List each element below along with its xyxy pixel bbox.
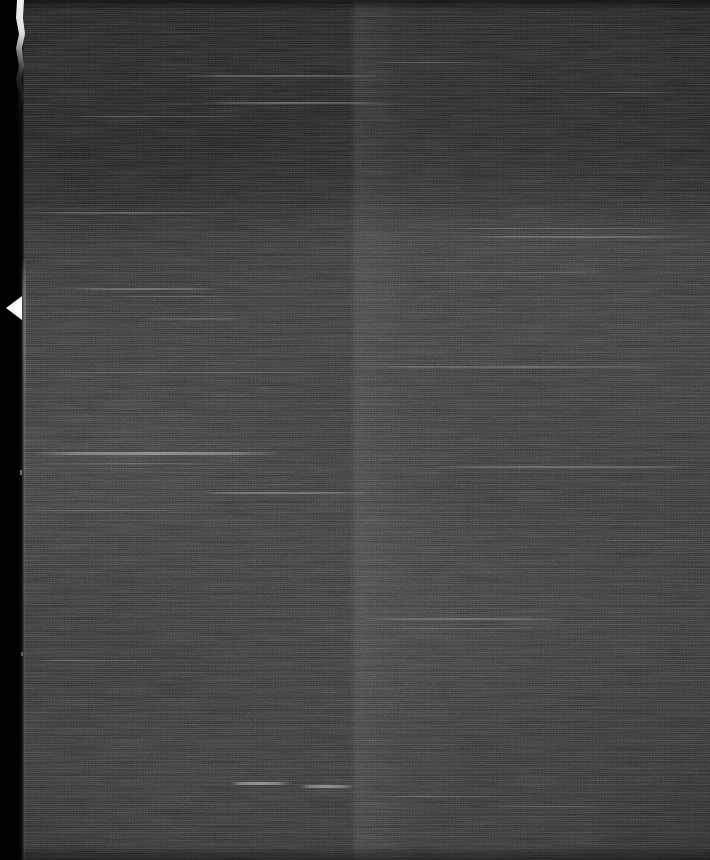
film-grain-overlay: [0, 0, 710, 860]
bright-streak: [30, 463, 230, 464]
bright-streak: [360, 618, 570, 620]
bright-streak: [24, 212, 224, 214]
bright-streak: [60, 116, 240, 117]
tonal-blotches: [0, 0, 710, 860]
bottom-edge-shadow: [0, 846, 710, 860]
top-edge-shadow: [0, 0, 710, 10]
bright-streak: [24, 660, 164, 661]
bright-streak: [230, 782, 290, 785]
vertical-splice-falloff: [0, 0, 710, 860]
bright-streak: [24, 510, 184, 511]
bright-streak: [200, 492, 370, 494]
bright-streak: [70, 288, 220, 290]
scanline-pattern-fine: [0, 0, 710, 860]
bright-streak: [370, 796, 500, 797]
bright-streak-group: [0, 0, 710, 860]
bright-streak: [360, 366, 660, 368]
left-black-margin: [0, 0, 24, 860]
vignette-overlay: [0, 0, 710, 860]
bright-streak: [300, 785, 355, 788]
bright-streak: [110, 296, 240, 297]
bright-streak: [430, 228, 690, 229]
bright-streak: [140, 318, 250, 320]
film-grain-overlay-secondary: [0, 0, 710, 860]
bright-streak: [600, 540, 700, 541]
bright-streak: [455, 236, 695, 238]
bright-streak: [24, 372, 354, 373]
bright-streak: [430, 466, 700, 468]
bright-streak: [30, 452, 280, 455]
bright-streak: [200, 102, 390, 104]
bright-streak: [370, 62, 490, 63]
bright-streak: [420, 272, 600, 273]
bright-streak: [380, 628, 540, 629]
film-base-tone: [0, 0, 710, 860]
vertical-grain-pattern: [0, 0, 710, 860]
scanline-pattern-coarse: [0, 0, 710, 860]
bright-streak: [180, 75, 380, 77]
vertical-splice-seam: [0, 0, 710, 860]
scanned-film-frame: Very dark grainy scanned film frame with…: [0, 0, 710, 860]
bright-streak: [560, 92, 680, 93]
bright-streak: [480, 806, 600, 807]
